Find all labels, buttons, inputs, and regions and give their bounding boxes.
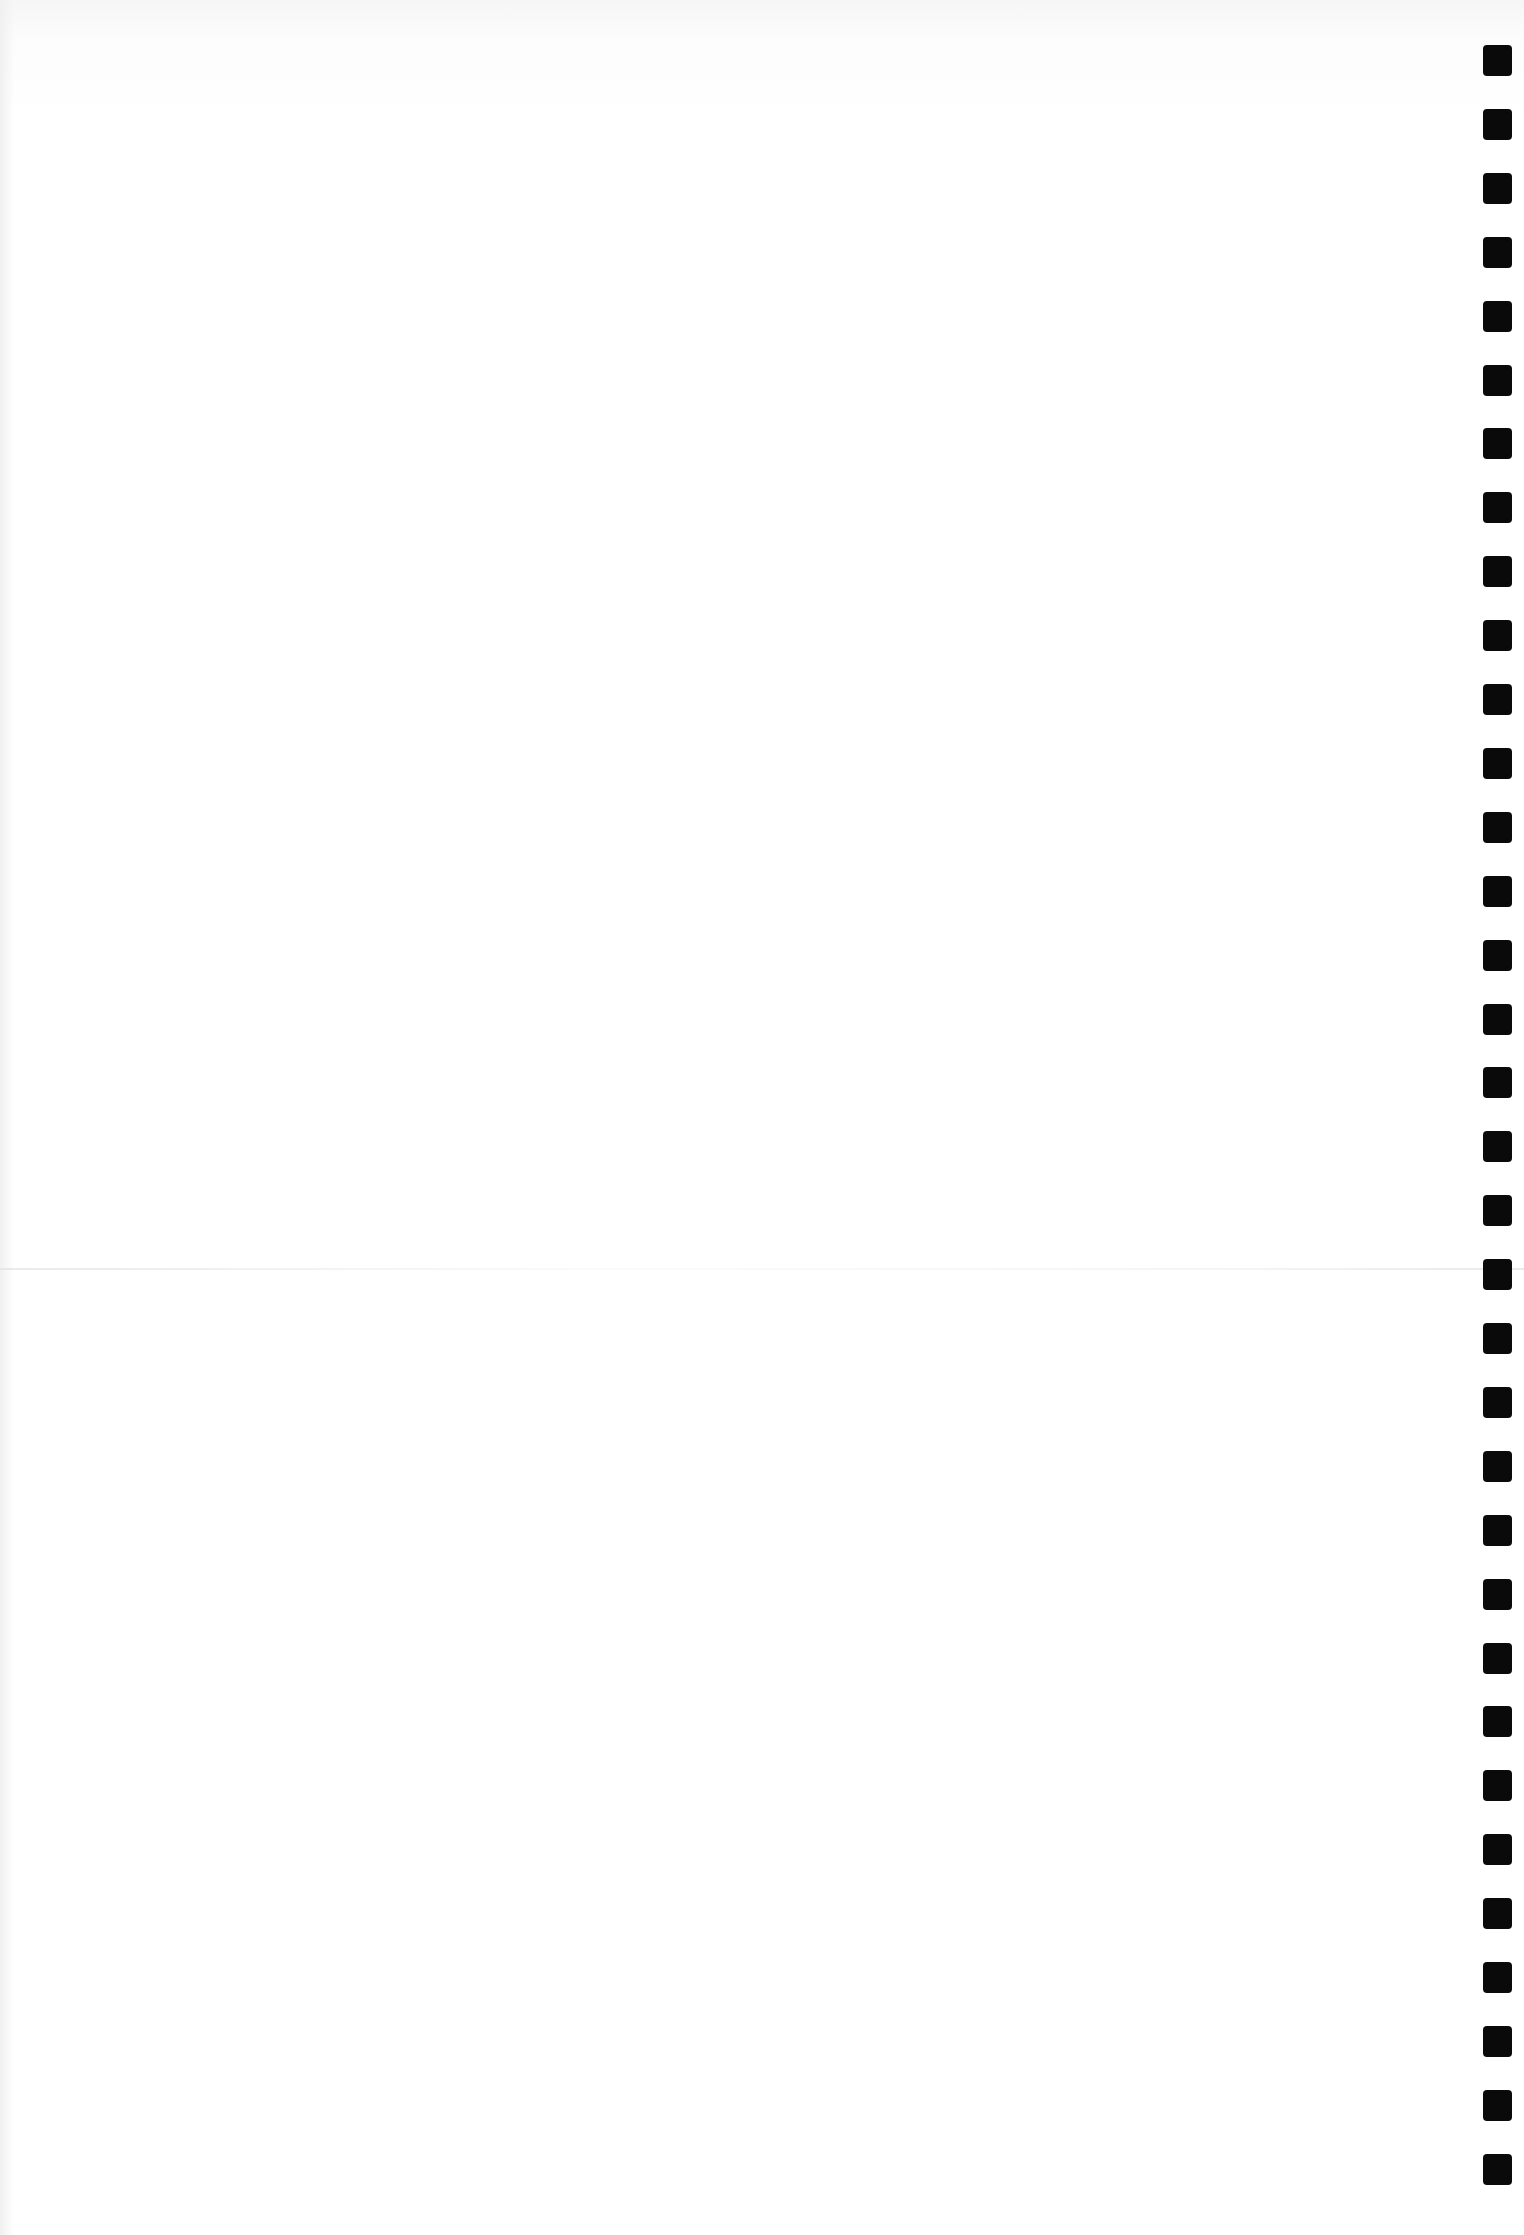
binding-hole <box>1483 1706 1512 1737</box>
binding-hole <box>1483 1643 1512 1674</box>
binding-hole <box>1483 1131 1512 1162</box>
binding-hole <box>1483 109 1512 140</box>
binding-hole <box>1483 173 1512 204</box>
binding-hole <box>1483 237 1512 268</box>
binding-hole <box>1483 1962 1512 1993</box>
binding-hole <box>1483 2154 1512 2185</box>
binding-hole <box>1483 1579 1512 1610</box>
binding-hole <box>1483 940 1512 971</box>
binding-hole <box>1483 1834 1512 1865</box>
binding-hole <box>1483 365 1512 396</box>
binding-hole <box>1483 492 1512 523</box>
binding-hole <box>1483 748 1512 779</box>
binding-hole <box>1483 1259 1512 1290</box>
binding-hole <box>1483 1387 1512 1418</box>
binding-hole <box>1483 2090 1512 2121</box>
binding-hole <box>1483 1770 1512 1801</box>
binding-hole <box>1483 876 1512 907</box>
binding-hole <box>1483 428 1512 459</box>
binding-hole <box>1483 1195 1512 1226</box>
binding-hole <box>1483 684 1512 715</box>
binding-hole <box>1483 301 1512 332</box>
binding-holes-column <box>0 0 1524 2235</box>
binding-hole <box>1483 1004 1512 1035</box>
binding-hole <box>1483 620 1512 651</box>
binding-hole <box>1483 2026 1512 2057</box>
binding-hole <box>1483 45 1512 76</box>
blank-paper-page <box>0 0 1524 2235</box>
binding-hole <box>1483 1898 1512 1929</box>
binding-hole <box>1483 1067 1512 1098</box>
binding-hole <box>1483 1515 1512 1546</box>
binding-hole <box>1483 556 1512 587</box>
binding-hole <box>1483 1451 1512 1482</box>
binding-hole <box>1483 812 1512 843</box>
binding-hole <box>1483 1323 1512 1354</box>
